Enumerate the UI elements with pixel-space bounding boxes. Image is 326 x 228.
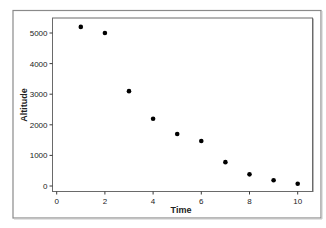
y-axis-label: Altitude bbox=[19, 88, 29, 122]
data-point bbox=[103, 31, 108, 36]
x-tick-label: 2 bbox=[103, 197, 108, 206]
data-point bbox=[151, 116, 156, 121]
x-axis-label: Time bbox=[171, 205, 192, 215]
y-tick-label: 4000 bbox=[30, 60, 48, 69]
x-tick-label: 8 bbox=[247, 197, 252, 206]
data-point bbox=[223, 160, 228, 165]
x-tick-label: 4 bbox=[151, 197, 156, 206]
x-tick-label: 0 bbox=[54, 197, 59, 206]
y-axis: 010002000300040005000 bbox=[30, 29, 53, 191]
x-axis: 0246810 bbox=[54, 192, 302, 206]
y-tick-label: 3000 bbox=[30, 90, 48, 99]
y-tick-label: 5000 bbox=[30, 29, 48, 38]
y-tick-label: 1000 bbox=[30, 151, 48, 160]
data-point bbox=[271, 178, 276, 183]
scatter-chart: 010002000300040005000 0246810 Altitude T… bbox=[0, 0, 326, 228]
data-point bbox=[79, 25, 84, 30]
data-point bbox=[175, 132, 180, 137]
y-tick-label: 0 bbox=[43, 182, 48, 191]
data-point bbox=[199, 139, 204, 144]
data-point bbox=[295, 181, 300, 186]
x-tick-label: 10 bbox=[293, 197, 302, 206]
y-tick-label: 2000 bbox=[30, 121, 48, 130]
data-point bbox=[247, 172, 252, 177]
plot-area bbox=[53, 18, 313, 192]
chart-canvas: 010002000300040005000 0246810 Altitude T… bbox=[0, 0, 326, 228]
x-tick-label: 6 bbox=[199, 197, 204, 206]
data-point bbox=[127, 89, 132, 94]
